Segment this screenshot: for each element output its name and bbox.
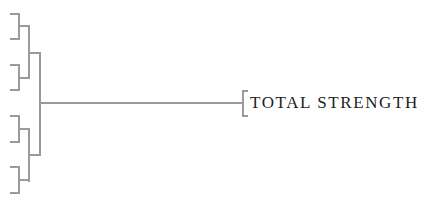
- bracket-root-vertical: [39, 52, 41, 156]
- root-label: TOTAL STRENGTH: [250, 94, 419, 112]
- root-connector-line: [39, 102, 243, 104]
- root-label-bracket-top-tick: [242, 90, 248, 92]
- root-label-bracket-vertical: [242, 90, 244, 116]
- bracket-tree-diagram: TOTAL STRENGTH: [0, 0, 435, 204]
- bracket-a-vertical: [18, 13, 20, 40]
- root-label-bracket-bottom-tick: [242, 115, 248, 117]
